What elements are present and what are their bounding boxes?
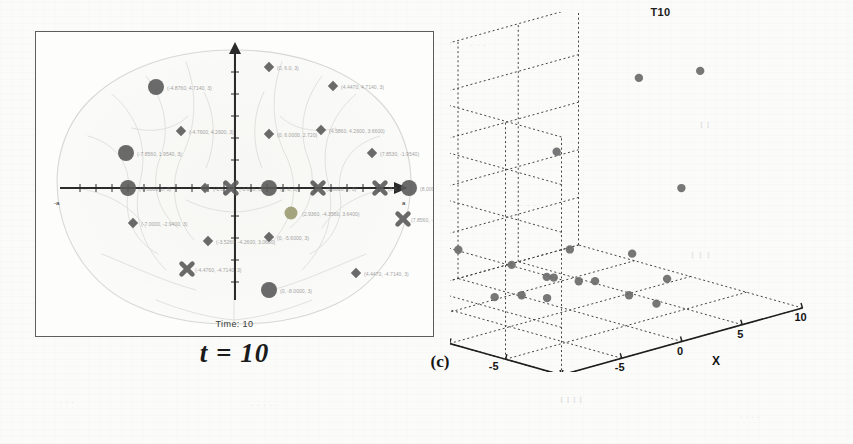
brain-marker-label: (0, -5.6000, 3)	[277, 235, 309, 241]
x-axis-label: X	[712, 354, 720, 368]
x-tick-label: 10	[794, 311, 806, 323]
scatter3d-point	[663, 275, 671, 283]
scatter3d-point	[628, 249, 636, 257]
brain-scatter-svg: -a a (-4.8760, 4.7140, 3)(-7.8560, 1.954…	[36, 32, 433, 336]
scatter3d-point	[652, 299, 660, 307]
scatter3d-point	[677, 184, 685, 192]
scatter3d-point	[552, 148, 560, 156]
y-tick-label: -5	[489, 360, 499, 372]
brain-marker-label: (4.4470, -4.7140, 3)	[364, 271, 409, 277]
scatter3d-point	[566, 245, 574, 253]
brain-marker-label: (4.4470, 4.7140, 3)	[341, 84, 384, 90]
brain-marker-label: (8.0000, 0, 3)	[420, 186, 433, 192]
subcaption-t-equals: t = 10	[35, 338, 434, 369]
scatter3d-point	[550, 273, 558, 281]
brain-plot-frame: -a a (-4.8760, 4.7140, 3)(-7.8560, 1.954…	[35, 31, 434, 337]
brain-marker-label: (-7.0000, -2.9400, 3)	[141, 221, 188, 227]
x-tick-label: 5	[737, 328, 743, 340]
x-tick-label: 0	[677, 345, 683, 357]
scatter3d-point	[517, 291, 525, 299]
scatter3d-point	[543, 294, 551, 302]
scatter3d-point	[454, 246, 462, 254]
time-label: Time: 10	[36, 319, 433, 329]
brain-panel: -a a (-4.8760, 4.7140, 3)(-7.8560, 1.954…	[0, 0, 450, 444]
brain-marker-label: (7.8530, -1.9540)	[380, 151, 419, 157]
scatter3d-point	[507, 261, 515, 269]
scatter3d-point	[625, 291, 633, 299]
figure-caption: (c)	[405, 352, 475, 372]
brain-marker-label: (0, -8.0000, 3)	[280, 288, 312, 294]
x-tick-label: -5	[615, 361, 625, 372]
scatter3d-point-group	[450, 67, 704, 318]
brain-marker-label: (4.5860, 4.2600, 3.6600)	[329, 128, 385, 134]
scatter3d-axes	[450, 74, 803, 372]
brain-marker-label: (-1.0, 0, 3)	[239, 186, 263, 192]
brain-marker-label: (0, 0, 3)	[280, 186, 298, 192]
brain-marker-label: (-4.8760, 4.7140, 3)	[167, 85, 212, 91]
scatter3d-point	[696, 67, 704, 75]
scatter3d-point	[591, 277, 599, 285]
brain-marker-label: (2.9360, -4.3560, 3.6400)	[302, 211, 360, 217]
brain-marker-label: (-7.8560, 1.9540, 3)	[137, 151, 182, 157]
svg-text:-a: -a	[54, 200, 60, 206]
scatter3d-panel: T10 -10-505101050-5-1000.20.40.60.81XYZ	[450, 0, 853, 444]
scatter3d-grid	[450, 12, 803, 372]
brain-marker-label: (-8.0000, 0, 3)	[139, 186, 171, 192]
brain-marker-label: (-3.5260, -4.2600, 3.0600)	[216, 239, 275, 245]
brain-marker-label: (0, 6.0000, 2.720)	[277, 132, 318, 138]
brain-marker-label: (6.0, 0, 3)	[388, 186, 410, 192]
brain-marker-label: (7.8560, -2.9600)	[411, 217, 433, 223]
scatter3d-point	[490, 293, 498, 301]
scatter3d-point	[635, 74, 643, 82]
brain-marker-label: (-4.7600, 4.2600, 3)	[189, 129, 234, 135]
brain-marker-label: (-4.4760, -4.7140, 3)	[195, 267, 242, 273]
brain-marker-label: (2.0000, 0, 3)	[326, 186, 357, 192]
scatter3d-svg: -10-505101050-5-1000.20.40.60.81XYZ	[450, 12, 853, 372]
brain-marker-label: (0, 6.0, 3)	[277, 65, 299, 71]
scatter3d-point	[575, 277, 583, 285]
